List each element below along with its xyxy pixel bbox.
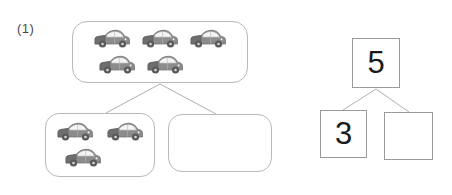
num-connector-left <box>343 89 376 110</box>
connector-left <box>106 84 160 113</box>
car-grid <box>46 114 154 176</box>
connector-right <box>160 84 216 114</box>
car-icon <box>140 27 180 51</box>
car-row <box>63 146 137 170</box>
car-row <box>55 120 145 144</box>
picture-group-whole[interactable] <box>72 21 248 83</box>
car-icon <box>188 27 228 51</box>
picture-group-part-2-blank[interactable] <box>168 114 272 172</box>
problem-number-label: (1) <box>17 21 34 36</box>
worksheet-canvas: (1) <box>0 0 452 195</box>
car-icon <box>105 120 145 144</box>
car-icon <box>63 146 103 170</box>
num-connector-right <box>376 89 409 112</box>
number-bond-part-1[interactable]: 3 <box>320 110 367 158</box>
car-icon <box>55 120 95 144</box>
number-bond-whole[interactable]: 5 <box>352 38 400 88</box>
number-bond-part-2-blank[interactable] <box>384 112 433 160</box>
car-icon <box>145 53 185 77</box>
car-row <box>97 53 223 77</box>
car-grid <box>73 22 247 82</box>
car-icon <box>92 27 132 51</box>
picture-group-part-1[interactable] <box>45 113 155 177</box>
car-row <box>92 27 228 51</box>
car-icon <box>97 53 137 77</box>
